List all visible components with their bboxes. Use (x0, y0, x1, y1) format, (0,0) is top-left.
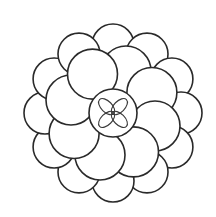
rosette-drawing (0, 0, 216, 217)
center-circle (89, 89, 137, 137)
center-flower (89, 89, 137, 137)
rosette-svg (0, 0, 216, 217)
